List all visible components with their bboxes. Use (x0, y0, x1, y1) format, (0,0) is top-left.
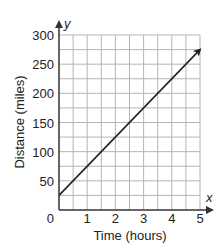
y-tick-label: 50 (40, 174, 54, 189)
x-tick-label: 2 (112, 211, 119, 226)
y-tick-label: 100 (32, 145, 54, 160)
x-axis-label: Time (hours) (93, 228, 166, 243)
y-tick-label: 250 (32, 57, 54, 72)
x-tick-label: 3 (140, 211, 147, 226)
x-tick-label: 5 (196, 211, 203, 226)
y-axis-variable: y (63, 16, 72, 31)
y-tick-label: 150 (32, 116, 54, 131)
tick-labels: 12345501001502002503000 (32, 28, 203, 226)
y-tick-label: 200 (32, 86, 54, 101)
x-tick-label: 1 (84, 211, 91, 226)
y-axis-label: Distance (miles) (12, 75, 27, 168)
x-axis-variable: x (205, 190, 213, 205)
origin-label: 0 (47, 211, 54, 226)
y-tick-label: 300 (32, 28, 54, 43)
distance-time-chart: 12345501001502002503000 Time (hours) Dis… (0, 0, 223, 251)
x-tick-label: 4 (168, 211, 175, 226)
